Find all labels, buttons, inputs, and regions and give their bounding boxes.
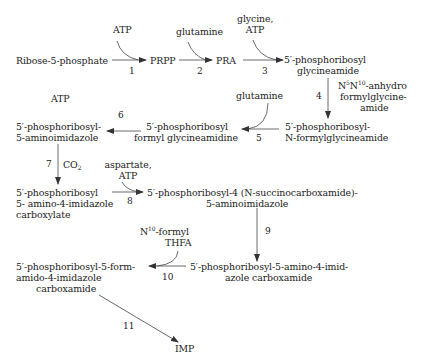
- cofactor-curve-10: [157, 251, 178, 266]
- compound-fgam-line1: 5′-phosphoribosyl: [146, 121, 228, 133]
- cofactor-step-3-line2: ATP: [237, 24, 273, 36]
- subscript: 2: [78, 164, 82, 171]
- step-label-1: 1: [129, 66, 135, 78]
- step-label-2: 2: [197, 66, 203, 78]
- cofactor-step-10-line2: THFA: [165, 237, 192, 249]
- cofactor-curve-2: [188, 42, 206, 60]
- cofactor-step-6: ATP: [51, 93, 70, 105]
- compound-aicar-line1: 5′-phosphoribosyl-5-amino-4-imid-: [190, 261, 348, 273]
- compound-fgam-line2: formyl glycineamidine: [134, 132, 238, 144]
- compound-gar-line2: glycineamide: [297, 65, 359, 77]
- compound-faicar-line1: 5′-phosphoribosyl-5-form-: [16, 261, 135, 273]
- cofactor-step-3-line1: glycine,: [237, 13, 273, 25]
- compound-saicar-line1: 5′-phosphoribosyl-4 (N-succinocarboxamid…: [147, 187, 358, 199]
- compound-fgar-line2: N-formylglycineamide: [285, 132, 388, 144]
- compound-faicar-line3: carboxamide: [36, 283, 96, 295]
- compound-cair-line2: 5- amino-4-imidazole: [16, 198, 113, 210]
- step-label-3: 3: [262, 66, 268, 78]
- cofactor-text: -anhydro: [365, 80, 406, 91]
- compound-imp: IMP: [175, 343, 194, 355]
- arrow-step-11: [99, 295, 178, 342]
- purine-pathway-diagram: ATP Ribose-5-phosphate PRPP 1 glutamine …: [0, 0, 425, 364]
- cofactor-text: -formyl: [156, 226, 189, 237]
- compound-air-line1: 5′-phosphoribosyl-: [16, 121, 101, 133]
- cofactor-step-7: CO2: [63, 159, 81, 171]
- cofactor-step-4-line1: N5N10-anhydro: [338, 80, 407, 92]
- compound-ribose-5-phosphate: Ribose-5-phosphate: [16, 55, 108, 67]
- compound-prpp: PRPP: [150, 55, 176, 67]
- step-label-5: 5: [256, 133, 262, 145]
- cofactor-text: N: [338, 80, 346, 91]
- compound-pra: PRA: [216, 55, 236, 67]
- cofactor-step-1: ATP: [113, 24, 132, 36]
- cofactor-step-8-line1: aspartate,: [103, 159, 153, 171]
- cofactor-text: N: [350, 80, 358, 91]
- superscript: 10: [148, 225, 155, 232]
- step-label-9: 9: [265, 226, 271, 238]
- compound-air-line2: 5-aminoimidazole: [16, 132, 98, 144]
- compound-faicar-line2: amido-4-imidazole: [16, 272, 101, 284]
- cofactor-curve-1: [117, 41, 138, 60]
- cofactor-text: CO: [63, 159, 78, 170]
- step-label-11: 11: [123, 321, 134, 333]
- compound-gar-line1: 5′-phosphoribosyl: [284, 54, 366, 66]
- compound-fgar-line1: 5′-phosphoribosyl-: [285, 121, 370, 133]
- cofactor-curve-5: [248, 103, 268, 129]
- compound-aicar-line2: azole carboxamide: [225, 272, 312, 284]
- step-label-7: 7: [46, 159, 52, 171]
- compound-cair-line3: carboxylate: [16, 209, 70, 221]
- cofactor-step-4-line2: formylglycine-: [340, 91, 407, 103]
- compound-cair-line1: 5′-phosphoribosyl: [16, 187, 98, 199]
- step-label-10: 10: [162, 272, 173, 284]
- cofactor-curve-8: [122, 182, 139, 192]
- cofactor-step-2: glutamine: [176, 26, 223, 38]
- step-label-4: 4: [316, 91, 322, 103]
- step-label-8: 8: [127, 196, 133, 208]
- step-label-6: 6: [118, 110, 124, 122]
- cofactor-step-10-line1: N10-formyl: [140, 226, 189, 238]
- cofactor-step-5: glutamine: [236, 90, 283, 102]
- cofactor-curve-3: [253, 40, 276, 60]
- cofactor-step-8-line2: ATP: [103, 170, 153, 182]
- cofactor-step-4-line3: amide: [360, 102, 389, 114]
- compound-saicar-line2: 5-aminoimidazole: [206, 198, 288, 210]
- cofactor-text: N: [140, 226, 148, 237]
